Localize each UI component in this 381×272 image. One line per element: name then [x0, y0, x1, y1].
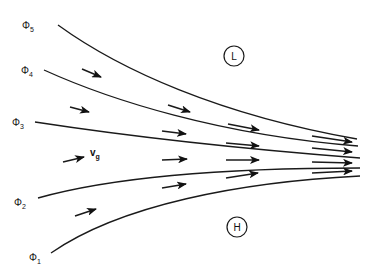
isobar-phi-3	[35, 122, 360, 158]
arrow-icon	[63, 157, 84, 162]
isobar-label-phi-5: Φ5	[22, 20, 34, 33]
arrow-icon	[226, 173, 258, 178]
arrow-icon	[75, 209, 96, 216]
arrow-icon	[162, 131, 186, 134]
arrow-icon	[70, 107, 89, 112]
pressure-center-label: H	[233, 222, 240, 233]
arrow-icon	[312, 171, 352, 173]
geostrophic-flow-diagram: LH Φ5Φ4Φ3Φ2Φ1 vg	[0, 0, 381, 272]
isobar-label-phi-3: Φ3	[12, 117, 24, 130]
geostrophic-velocity-label: vg	[90, 147, 100, 161]
arrow-icon	[226, 143, 259, 146]
isobar-phi-5	[58, 25, 357, 139]
isobar-label-phi-2: Φ2	[14, 197, 26, 210]
pressure-center-label: L	[231, 51, 237, 62]
isobar-phi-1	[51, 176, 360, 253]
arrow-icon	[162, 184, 186, 188]
pressure-centers: LH	[224, 46, 247, 237]
isobar-labels: Φ5Φ4Φ3Φ2Φ1	[12, 20, 41, 265]
isobar-label-phi-1: Φ1	[29, 252, 41, 265]
arrow-icon	[312, 162, 352, 163]
isobar-label-phi-4: Φ4	[21, 65, 33, 78]
arrow-icon	[162, 159, 187, 160]
arrow-icon	[82, 69, 101, 77]
isobar-phi-4	[44, 70, 358, 146]
arrow-icon	[312, 148, 352, 152]
arrow-icon	[168, 105, 190, 112]
isobar-phi-2	[38, 168, 360, 198]
isobar-lines	[35, 25, 360, 253]
